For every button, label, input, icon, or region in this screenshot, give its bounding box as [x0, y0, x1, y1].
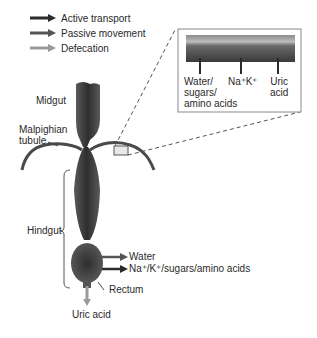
- rectum: [71, 243, 103, 283]
- inset-label-uric-acid: Uric acid: [270, 76, 288, 98]
- zoom-box: [114, 146, 128, 155]
- label-uric-acid: Uric acid: [72, 309, 111, 320]
- hindgut-brace: [60, 170, 70, 288]
- midgut: [76, 82, 100, 147]
- label-ions: Na⁺/K⁺/sugars/amino acids: [129, 263, 250, 274]
- label-water: Water: [129, 251, 155, 262]
- malpighian-tubule-left: [22, 144, 82, 170]
- hindgut: [74, 147, 100, 240]
- gut-diagram: [0, 0, 317, 338]
- inset-label-na-k: Na⁺K⁺: [228, 76, 257, 87]
- label-hindgut: Hindgut: [27, 225, 61, 236]
- label-rectum: Rectum: [109, 284, 143, 295]
- inset-tubule-wall: [186, 35, 295, 62]
- label-midgut: Midgut: [36, 95, 66, 106]
- label-malpighian-line2: tubule: [19, 135, 46, 146]
- label-malpighian-line1: Malpighian: [19, 124, 67, 135]
